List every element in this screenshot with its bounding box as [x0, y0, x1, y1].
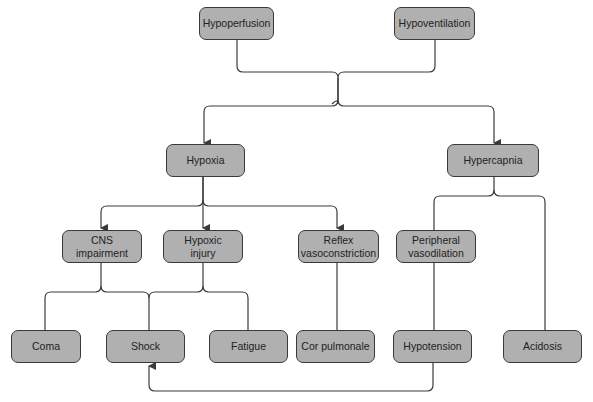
node-hypoxic-injury: Hypoxic injury [163, 230, 243, 263]
node-hypoperfusion: Hypoperfusion [199, 7, 274, 40]
node-label: Cor pulmonale [301, 340, 369, 353]
node-label: Hypercapnia [464, 154, 523, 167]
node-fatigue: Fatigue [209, 330, 288, 363]
node-label: Shock [131, 340, 160, 353]
node-label: Hypoventilation [399, 17, 471, 30]
node-hypoxia: Hypoxia [166, 144, 245, 177]
node-hypercapnia: Hypercapnia [447, 144, 539, 177]
node-label: Reflex vasoconstriction [301, 234, 376, 260]
node-shock: Shock [106, 330, 185, 363]
node-label: Hypoxia [187, 154, 225, 167]
node-acidosis: Acidosis [503, 330, 582, 363]
node-label: Hypotension [403, 340, 461, 353]
node-label: Acidosis [523, 340, 562, 353]
node-label: Hypoperfusion [203, 17, 271, 30]
node-cor-pulmonale: Cor pulmonale [296, 330, 375, 363]
node-label: Peripheral vasodilation [408, 234, 463, 260]
node-label: CNS impairment [76, 234, 128, 260]
node-cns-impairment: CNS impairment [62, 230, 142, 263]
node-hypoventilation: Hypoventilation [394, 7, 475, 40]
node-label: Coma [32, 340, 60, 353]
node-label: Hypoxic injury [184, 234, 221, 260]
node-reflex-vasoconstriction: Reflex vasoconstriction [298, 230, 379, 263]
node-hypotension: Hypotension [393, 330, 472, 363]
node-coma: Coma [11, 330, 81, 363]
node-peripheral-vasodilation: Peripheral vasodilation [396, 230, 476, 263]
node-label: Fatigue [231, 340, 266, 353]
